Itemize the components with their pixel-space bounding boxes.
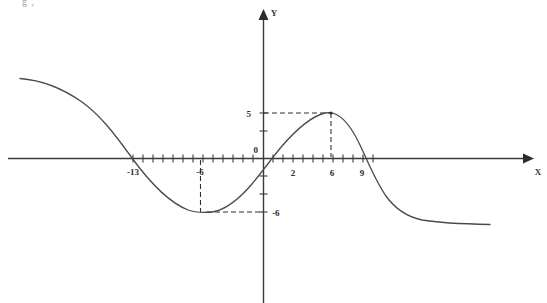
y-axis-label: Y: [271, 8, 278, 18]
y-tick-label-5: 5: [247, 109, 252, 119]
x-tick-label-minus6: -6: [196, 167, 204, 177]
x-tick-label-6: 6: [330, 168, 335, 178]
figure-canvas: g ,: [0, 0, 547, 303]
graph-svg: -13 -6 2 6 9 5 -6 0 Y X: [0, 0, 547, 303]
x-axis-label: X: [535, 167, 542, 177]
y-tick-label-minus6: -6: [272, 208, 280, 218]
x-axis-arrow-icon: [523, 154, 534, 164]
x-tick-label-2: 2: [291, 168, 296, 178]
maximum-point-marker: [329, 111, 332, 114]
y-axis-arrow-icon: [259, 9, 269, 20]
origin-label: 0: [254, 145, 259, 155]
x-tick-label-minus13: -13: [127, 167, 139, 177]
x-tick-label-9: 9: [360, 168, 365, 178]
